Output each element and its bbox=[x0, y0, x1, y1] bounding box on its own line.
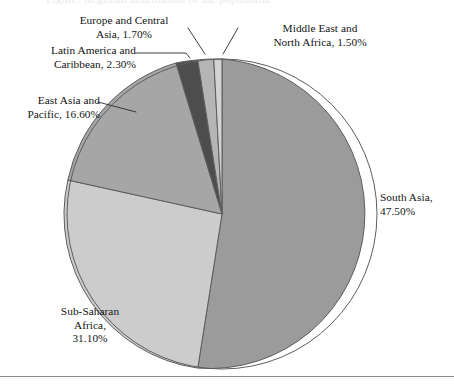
figure-bottom-rule bbox=[0, 376, 454, 377]
pie-label-europe-and-central-asia: Europe and Central Asia, 1.70% bbox=[52, 14, 196, 41]
pie-label-sub-saharan-africa: Sub-Saharan Africa, 31.10% bbox=[30, 305, 150, 346]
pie-label-south-asia: South Asia, 47.50% bbox=[380, 191, 454, 218]
pie-label-middle-east-and-north-africa: Middle East and North Africa, 1.50% bbox=[240, 22, 400, 49]
pie-chart-figure: Figure: Regional distribution of the pop… bbox=[0, 0, 454, 386]
pie-slice-south-asia[interactable] bbox=[198, 59, 365, 369]
leader-line-latin-america-and-caribbean bbox=[136, 53, 190, 58]
pie-label-latin-america-and-caribbean: Latin America and Caribbean, 2.30% bbox=[6, 44, 136, 71]
leader-line-middle-east-and-north-africa bbox=[223, 28, 238, 54]
pie-label-east-asia-and-pacific: East Asia and Pacific, 16.60% bbox=[4, 94, 100, 121]
